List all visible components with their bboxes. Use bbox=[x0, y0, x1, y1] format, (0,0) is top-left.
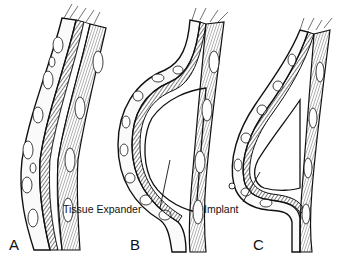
tissue-expander-label: Tissue Expander bbox=[63, 203, 141, 215]
panel-b-label: B bbox=[130, 236, 140, 253]
panel-c-drawing bbox=[229, 18, 332, 252]
implant-label: Implant bbox=[204, 203, 238, 215]
panel-a-label: A bbox=[9, 236, 19, 253]
panel-c-label: C bbox=[253, 236, 264, 253]
illustration-canvas bbox=[0, 0, 354, 260]
panel-b-drawing bbox=[118, 8, 228, 252]
